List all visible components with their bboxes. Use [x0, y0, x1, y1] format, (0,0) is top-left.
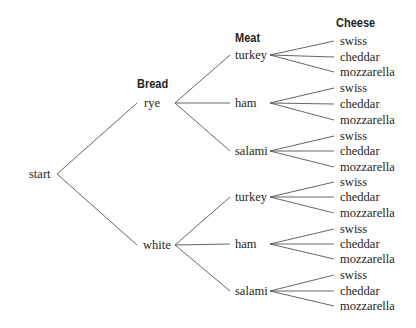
node-cheese-mozzarella: mozzarella — [340, 65, 395, 79]
node-meat-ham: ham — [235, 96, 257, 110]
node-cheese-swiss: swiss — [340, 268, 367, 282]
header-cheese: Cheese — [336, 16, 375, 30]
node-cheese-mozzarella: mozzarella — [340, 160, 395, 174]
node-cheese-swiss: swiss — [340, 222, 367, 236]
header-meat: Meat — [235, 31, 260, 45]
node-cheese-swiss: swiss — [340, 129, 367, 143]
node-meat-ham: ham — [235, 237, 257, 251]
tree-diagram: Bread Meat Cheese start rye white turkey… — [0, 0, 416, 328]
node-meat-turkey: turkey — [235, 48, 267, 62]
node-cheese-cheddar: cheddar — [340, 97, 380, 111]
node-start: start — [29, 167, 51, 181]
node-cheese-mozzarella: mozzarella — [340, 113, 395, 127]
node-cheese-mozzarella: mozzarella — [340, 252, 395, 266]
node-cheese-swiss: swiss — [340, 81, 367, 95]
node-cheese-cheddar: cheddar — [340, 144, 380, 158]
node-cheese-cheddar: cheddar — [340, 190, 380, 204]
node-bread-white: white — [143, 238, 171, 252]
node-meat-salami: salami — [235, 284, 268, 298]
node-meat-turkey: turkey — [235, 190, 267, 204]
node-cheese-mozzarella: mozzarella — [340, 299, 395, 313]
node-meat-salami: salami — [235, 144, 268, 158]
node-cheese-cheddar: cheddar — [340, 284, 380, 298]
node-cheese-cheddar: cheddar — [340, 50, 380, 64]
header-bread: Bread — [137, 77, 168, 91]
node-cheese-swiss: swiss — [340, 175, 367, 189]
node-cheese-mozzarella: mozzarella — [340, 206, 395, 220]
node-cheese-cheddar: cheddar — [340, 237, 380, 251]
node-bread-rye: rye — [144, 96, 160, 110]
node-cheese-swiss: swiss — [340, 34, 367, 48]
